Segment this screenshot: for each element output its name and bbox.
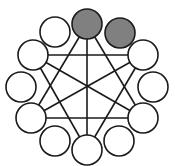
empty-node-circle	[128, 103, 158, 133]
empty-node-circle	[40, 17, 70, 47]
filled-node-circle	[105, 18, 135, 48]
empty-node-circle	[40, 126, 70, 156]
empty-node-circle	[128, 40, 158, 70]
empty-node-circle	[138, 72, 168, 102]
empty-node-circle	[72, 135, 102, 165]
empty-node-circle	[18, 40, 48, 70]
filled-node-circle	[72, 9, 102, 39]
empty-node-circle	[104, 126, 134, 156]
empty-node-circle	[16, 103, 46, 133]
empty-node-circle	[6, 72, 36, 102]
circle-graph-diagram	[0, 0, 175, 166]
